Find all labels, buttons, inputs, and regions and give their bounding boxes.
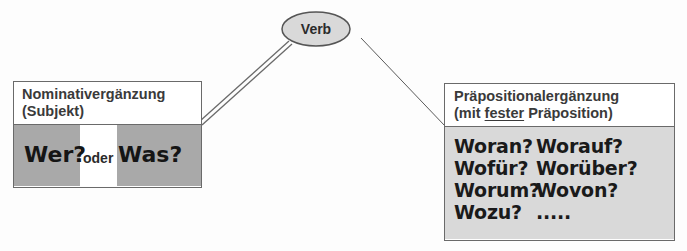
question-word-grid: Woran? Worauf? Wofür? Worüber? Worum? Wo…: [454, 135, 638, 223]
prepositional-complement-box: Präpositionalergänzung (mit fester Präpo…: [444, 83, 675, 241]
prepositional-title: Präpositionalergänzung: [454, 88, 674, 105]
ellipsis-more: .....: [536, 201, 638, 223]
single-connector-line: [361, 38, 445, 126]
double-connector-line-b: [202, 44, 292, 125]
question-worueber: Worüber?: [536, 157, 638, 179]
nominative-subtitle: (Subjekt): [22, 103, 201, 120]
prepositional-box-header: Präpositionalergänzung (mit fester Präpo…: [445, 84, 674, 127]
subtitle-pre: (mit: [454, 105, 485, 121]
prepositional-subtitle: (mit fester Präposition): [454, 105, 674, 122]
subtitle-post: Präposition): [524, 105, 613, 121]
nominative-complement-box: Nominativergänzung (Subjekt) Wer? oder W…: [13, 81, 202, 188]
question-woran: Woran?: [454, 135, 536, 157]
question-worauf: Worauf?: [536, 135, 638, 157]
connector-oder: oder: [83, 149, 113, 167]
double-connector-line-a: [200, 41, 289, 121]
question-wozu: Wozu?: [454, 201, 536, 223]
nominative-box-body: Wer? oder Was?: [14, 125, 201, 186]
verb-label: Verb: [282, 17, 350, 41]
question-wofuer: Wofür?: [454, 157, 536, 179]
nominative-box-header: Nominativergänzung (Subjekt): [14, 82, 201, 125]
subtitle-underlined-fester: fester: [485, 105, 525, 121]
question-wer: Wer?: [24, 142, 86, 168]
prepositional-box-body: Woran? Worauf? Wofür? Worüber? Worum? Wo…: [445, 127, 674, 239]
question-wovon: Wovon?: [536, 179, 638, 201]
nominative-title: Nominativergänzung: [22, 86, 201, 103]
question-was: Was?: [118, 142, 182, 168]
question-worum: Worum?: [454, 179, 536, 201]
